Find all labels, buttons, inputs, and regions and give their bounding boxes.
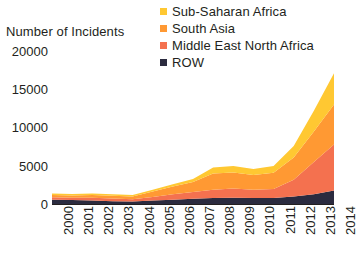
x-axis-tick-label: 2008: [223, 206, 236, 256]
y-axis-tick-label: 20000: [0, 45, 48, 58]
legend-item[interactable]: South Asia: [160, 21, 314, 36]
x-axis-tick-labels: 2000200120022003200420052006200720082009…: [52, 206, 334, 256]
area-series-group: [52, 44, 334, 205]
legend-item[interactable]: Sub-Saharan Africa: [160, 4, 314, 19]
y-axis-tick-label: 10000: [0, 121, 48, 134]
x-axis-tick-label: 2004: [143, 206, 156, 256]
x-axis-tick-label: 2006: [183, 206, 196, 256]
y-axis-tick-label: 5000: [0, 160, 48, 173]
x-axis-tick-label: 2012: [304, 206, 317, 256]
y-axis-tick-label: 0: [0, 198, 48, 211]
legend-swatch-icon: [160, 8, 167, 15]
plot-area: [52, 44, 334, 205]
x-axis-tick-label: 2002: [102, 206, 115, 256]
y-axis-tick-labels: 20000150001000050000: [0, 0, 48, 256]
y-axis-tick-label: 15000: [0, 83, 48, 96]
legend-item-label: South Asia: [172, 22, 235, 35]
x-axis-tick-label: 2014: [344, 206, 357, 256]
x-axis-tick-label: 2013: [324, 206, 337, 256]
legend-swatch-icon: [160, 25, 167, 32]
x-axis-tick-label: 2001: [82, 206, 95, 256]
legend-item-label: Sub-Saharan Africa: [172, 5, 287, 18]
x-axis-tick-label: 2003: [122, 206, 135, 256]
x-axis-tick-label: 2010: [263, 206, 276, 256]
x-axis-tick-label: 2009: [243, 206, 256, 256]
x-axis-tick-label: 2011: [284, 206, 297, 256]
x-axis-tick-label: 2005: [163, 206, 176, 256]
x-axis-tick-label: 2007: [203, 206, 216, 256]
x-axis-line: [52, 204, 334, 205]
x-axis-tick-label: 2000: [62, 206, 75, 256]
